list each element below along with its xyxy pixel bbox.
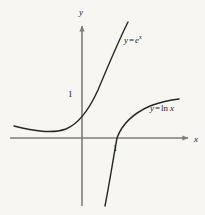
exponential-curve: [14, 22, 128, 132]
x-axis-tick-label-1: 1: [113, 144, 118, 153]
exponential-curve-label: y=ex: [124, 36, 142, 45]
log-label-x: x: [168, 103, 174, 113]
logarithm-curve-label: y=lnx: [150, 104, 174, 113]
y-axis-tick-label-1: 1: [68, 90, 73, 99]
exp-label-exponent: x: [139, 33, 142, 40]
y-axis-label: y: [79, 8, 83, 17]
graph-canvas: [0, 0, 205, 215]
function-graph-figure: y x 1 1 y=ex y=lnx: [0, 0, 205, 215]
x-axis-label: x: [194, 135, 198, 144]
